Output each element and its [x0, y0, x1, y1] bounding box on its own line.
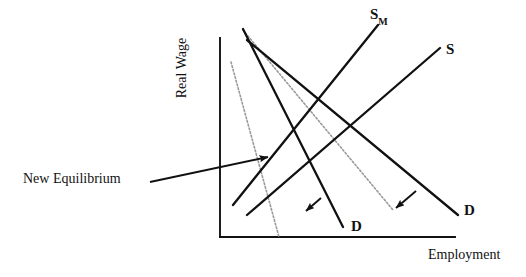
new-equilibrium-arrow — [150, 157, 268, 182]
y-axis-label-text: Real Wage — [175, 34, 189, 102]
curve-demand-original — [243, 29, 343, 227]
x-axis-label: Employment — [428, 248, 500, 262]
curve-label-supply-s: S — [446, 42, 454, 57]
curve-label-supply-sm-subscript: M — [378, 16, 387, 27]
curve-label-demand-shifted: D — [464, 203, 475, 218]
shift-arrow-inner — [306, 198, 321, 211]
curve-label-supply-sm: SM — [370, 7, 388, 25]
curve-label-demand-original: D — [351, 219, 362, 234]
diagram-canvas: Real Wage Employment SM S D D New Equili… — [0, 0, 526, 277]
shift-arrow-outer — [396, 191, 416, 208]
curve-supply-s — [247, 48, 440, 215]
y-axis-label: Real Wage — [160, 22, 204, 118]
annotation-new-equilibrium: New Equilibrium — [23, 172, 121, 186]
curve-demand-dotted-right — [243, 30, 393, 210]
